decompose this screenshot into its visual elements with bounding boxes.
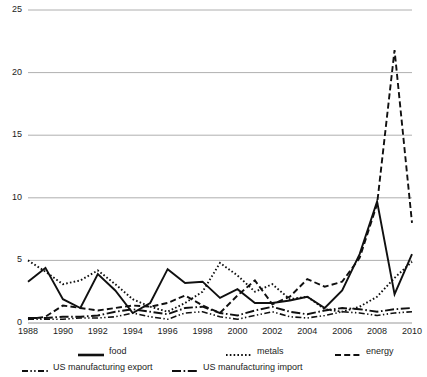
y-tick-label-5: 5 (2, 255, 22, 264)
y-tick-label-20: 20 (2, 68, 22, 77)
legend-item-us-manufacturing-import[interactable]: US manufacturing import (172, 359, 303, 375)
legend-line-swatch-dotted (226, 346, 252, 356)
legend-row-primary: foodmetalsenergy (0, 343, 419, 359)
x-tick-label-1996: 1996 (151, 327, 185, 336)
x-tick-label-2008: 2008 (360, 327, 394, 336)
legend-label: US manufacturing import (203, 363, 303, 372)
series-line-food (28, 202, 412, 313)
x-tick-label-1994: 1994 (116, 327, 150, 336)
legend-line-swatch-longdash-dot (172, 362, 198, 372)
legend-label: US manufacturing export (53, 363, 153, 372)
x-tick-label-1988: 1988 (11, 327, 45, 336)
legend-line-swatch-dash-dot-dot (22, 362, 48, 372)
legend-label: metals (257, 347, 284, 356)
legend-item-us-manufacturing-export[interactable]: US manufacturing export (22, 359, 153, 375)
series-line-metals (28, 260, 412, 311)
series-lines (28, 50, 412, 319)
y-tick-label-25: 25 (2, 5, 22, 14)
x-tick-label-1990: 1990 (46, 327, 80, 336)
chart-legend: foodmetalsenergy US manufacturing export… (0, 340, 419, 377)
x-tick-label-1992: 1992 (81, 327, 115, 336)
legend-line-swatch-dashed (335, 346, 361, 356)
legend-label: energy (366, 347, 394, 356)
legend-item-food[interactable]: food (78, 343, 127, 359)
x-tick-label-2002: 2002 (255, 327, 289, 336)
legend-item-energy[interactable]: energy (335, 343, 394, 359)
legend-line-swatch-solid (78, 346, 104, 356)
y-tick-label-15: 15 (2, 130, 22, 139)
chart-plot-area (0, 0, 419, 340)
legend-label: food (109, 347, 127, 356)
x-tick-label-1998: 1998 (186, 327, 220, 336)
x-tick-label-2010: 2010 (395, 327, 427, 336)
x-tick-label-2006: 2006 (325, 327, 359, 336)
gridlines (28, 10, 412, 323)
legend-item-metals[interactable]: metals (226, 343, 284, 359)
x-tick-label-2004: 2004 (290, 327, 324, 336)
y-tick-label-10: 10 (2, 193, 22, 202)
legend-row-secondary: US manufacturing exportUS manufacturing … (0, 359, 419, 375)
series-line-energy (28, 50, 412, 319)
x-tick-label-2000: 2000 (220, 327, 254, 336)
